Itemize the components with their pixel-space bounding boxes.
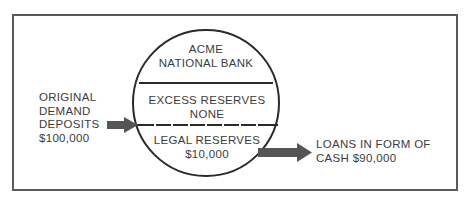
loans-line1: LOANS IN FORM OF [316,138,431,152]
loans-amount: $90,000 [353,152,397,164]
loans-cash-prefix: CASH [316,152,349,164]
excess-reserves: EXCESS RESERVES NONE [140,94,274,121]
excess-reserves-label: EXCESS RESERVES [140,94,274,108]
bank-name: ACME NATIONAL BANK [150,43,262,70]
loans-cash: LOANS IN FORM OF CASH $90,000 [316,138,431,165]
inflow-arrow-icon [107,117,138,133]
legal-reserves: LEGAL RESERVES $10,000 [140,134,274,161]
original-deposits: ORIGINAL DEMAND DEPOSITS $100,000 [39,91,100,145]
deposits-line2: DEMAND [39,105,100,119]
legal-reserves-value: $10,000 [140,148,274,162]
bank-name-line1: ACME [150,43,262,57]
deposits-amount: $100,000 [39,132,100,146]
excess-reserves-value: NONE [140,108,274,122]
deposits-line1: ORIGINAL [39,91,100,105]
deposits-line3: DEPOSITS [39,118,100,132]
bank-name-line2: NATIONAL BANK [150,57,262,71]
legal-reserves-label: LEGAL RESERVES [140,134,274,148]
loans-line2: CASH $90,000 [316,152,431,166]
